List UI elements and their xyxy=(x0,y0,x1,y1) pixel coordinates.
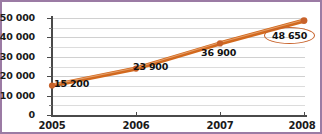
gridline-20000 xyxy=(52,76,305,77)
y-tick-40000 xyxy=(47,37,52,38)
data-label-2007: 36 900 xyxy=(201,47,236,58)
y-tick-5000 xyxy=(49,105,52,106)
y-axis-label-50000: 50 000 xyxy=(0,12,35,23)
y-axis-label-0: 0 xyxy=(29,109,35,120)
chart-frame: 50 000 40 000 30 000 20 000 10 000 0 200… xyxy=(0,0,322,134)
x-axis-label-2008: 2008 xyxy=(280,120,322,131)
x-tick-2007 xyxy=(220,112,221,116)
y-axis-label-40000: 40 000 xyxy=(0,31,35,42)
x-axis-label-2006: 2006 xyxy=(114,120,158,131)
y-axis-label-30000: 30 000 xyxy=(0,51,35,62)
y-tick-45000 xyxy=(49,28,52,29)
gridline-30000 xyxy=(52,57,305,58)
gridline-35000 xyxy=(52,47,305,48)
y-axis-label-10000: 10 000 xyxy=(0,90,35,101)
data-label-2006: 23 900 xyxy=(133,61,168,72)
chart-canvas: 50 000 40 000 30 000 20 000 10 000 0 200… xyxy=(5,5,317,129)
x-axis-line xyxy=(51,115,307,117)
x-tick-2008 xyxy=(304,112,305,116)
y-tick-15000 xyxy=(49,86,52,87)
x-axis-label-2005: 2005 xyxy=(30,120,74,131)
x-tick-2005 xyxy=(52,112,53,116)
y-tick-50000 xyxy=(47,18,52,19)
data-label-2005: 15 200 xyxy=(54,78,89,89)
y-tick-20000 xyxy=(47,76,52,77)
y-tick-25000 xyxy=(49,67,52,68)
y-tick-30000 xyxy=(47,57,52,58)
gridline-45000 xyxy=(52,28,305,29)
gridline-50000 xyxy=(52,18,305,19)
y-tick-10000 xyxy=(47,96,52,97)
gridline-10000 xyxy=(52,96,305,97)
x-tick-2006 xyxy=(136,112,137,116)
x-axis-label-2007: 2007 xyxy=(198,120,242,131)
y-axis-label-20000: 20 000 xyxy=(0,70,35,81)
gridline-5000 xyxy=(52,105,305,106)
y-tick-35000 xyxy=(49,47,52,48)
gridline-15000 xyxy=(52,86,305,87)
data-label-2008-annotated: 48 650 xyxy=(264,27,315,44)
gridline-25000 xyxy=(52,67,305,68)
